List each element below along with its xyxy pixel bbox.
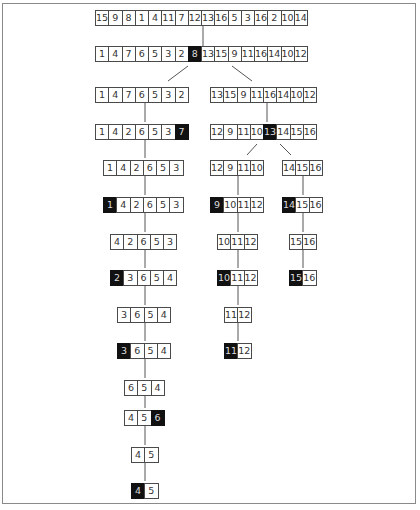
array-cell: 6	[137, 234, 151, 250]
array-cell: 3	[241, 10, 255, 26]
array-cell: 9	[108, 10, 122, 26]
array-cell: 12	[237, 307, 251, 323]
array-cell: 5	[148, 87, 162, 103]
array-row: 3654	[117, 307, 171, 323]
array-cell: 15	[223, 87, 237, 103]
array-row: 141516	[282, 197, 323, 213]
array-cell: 7	[122, 46, 136, 62]
array-cell: 5	[148, 124, 162, 140]
array-cell: 2	[267, 10, 281, 26]
array-cell: 6	[130, 343, 144, 359]
array-cell: 5	[150, 234, 164, 250]
connector-line	[232, 66, 252, 81]
array-cell: 4	[116, 160, 130, 176]
array-cell: 14	[294, 10, 308, 26]
array-cell: 6	[143, 197, 157, 213]
pivot-cell: 4	[131, 483, 145, 499]
array-row: 1426537	[95, 124, 189, 140]
array-cell: 11	[237, 160, 251, 176]
array-cell: 16	[214, 10, 228, 26]
array-row: 456	[124, 410, 165, 426]
array-row: 159814117121316531621014	[95, 10, 308, 26]
array-cell: 10	[290, 87, 304, 103]
pivot-cell: 14	[282, 197, 296, 213]
array-cell: 3	[117, 307, 131, 323]
array-cell: 5	[137, 410, 151, 426]
array-cell: 5	[144, 307, 158, 323]
array-cell: 14	[267, 46, 281, 62]
pivot-cell: 1	[103, 197, 117, 213]
array-cell: 6	[135, 124, 149, 140]
array-cell: 10	[250, 124, 264, 140]
array-cell: 5	[228, 10, 242, 26]
array-cell: 2	[122, 124, 136, 140]
array-cell: 5	[156, 160, 170, 176]
array-cell: 4	[157, 343, 171, 359]
array-cell: 12	[210, 160, 224, 176]
connector-lines	[0, 0, 420, 510]
array-cell: 6	[143, 160, 157, 176]
array-row: 42653	[110, 234, 177, 250]
array-cell: 16	[302, 234, 316, 250]
array-cell: 5	[148, 46, 162, 62]
array-cell: 6	[137, 270, 151, 286]
array-cell: 12	[244, 234, 258, 250]
array-cell: 13	[210, 87, 224, 103]
array-cell: 3	[161, 46, 175, 62]
array-row: 142653	[103, 160, 184, 176]
array-cell: 9	[223, 160, 237, 176]
array-cell: 2	[175, 46, 189, 62]
array-cell: 4	[108, 87, 122, 103]
array-cell: 13	[201, 10, 215, 26]
array-cell: 12	[188, 10, 202, 26]
array-cell: 4	[157, 307, 171, 323]
array-cell: 9	[228, 46, 242, 62]
array-cell: 3	[161, 124, 175, 140]
array-row: 1516	[289, 270, 317, 286]
pivot-cell: 11	[224, 343, 238, 359]
array-cell: 4	[151, 380, 165, 396]
array-cell: 1	[103, 160, 117, 176]
array-cell: 4	[116, 197, 130, 213]
array-cell: 5	[144, 483, 158, 499]
array-cell: 4	[131, 447, 145, 463]
array-row: 9101112	[210, 197, 264, 213]
array-cell: 2	[130, 197, 144, 213]
array-cell: 2	[175, 87, 189, 103]
array-cell: 15	[214, 46, 228, 62]
array-cell: 7	[122, 87, 136, 103]
array-cell: 11	[241, 46, 255, 62]
array-cell: 3	[169, 197, 183, 213]
array-row: 131591116141012	[210, 87, 317, 103]
pivot-cell: 6	[151, 410, 165, 426]
array-cell: 16	[254, 10, 268, 26]
pivot-cell: 10	[217, 270, 231, 286]
array-cell: 11	[230, 234, 244, 250]
array-cell: 15	[289, 234, 303, 250]
array-cell: 4	[108, 46, 122, 62]
array-cell: 16	[254, 46, 268, 62]
array-cell: 3	[161, 87, 175, 103]
array-cell: 12	[250, 197, 264, 213]
array-cell: 16	[303, 124, 317, 140]
connector-line	[247, 144, 257, 155]
array-cell: 6	[124, 380, 138, 396]
array-cell: 14	[276, 124, 290, 140]
array-cell: 14	[276, 87, 290, 103]
array-cell: 15	[295, 197, 309, 213]
array-cell: 12	[237, 343, 251, 359]
array-cell: 3	[123, 270, 137, 286]
array-row: 14765328131591116141012	[95, 46, 308, 62]
array-row: 45	[131, 483, 159, 499]
array-cell: 11	[250, 87, 264, 103]
array-row: 129111013141516	[210, 124, 317, 140]
array-cell: 5	[144, 343, 158, 359]
array-cell: 10	[217, 234, 231, 250]
array-row: 1476532	[95, 87, 189, 103]
array-cell: 4	[110, 234, 124, 250]
array-cell: 5	[137, 380, 151, 396]
array-cell: 4	[108, 124, 122, 140]
array-cell: 11	[224, 307, 238, 323]
array-row: 1112	[224, 307, 252, 323]
array-row: 654	[124, 380, 165, 396]
